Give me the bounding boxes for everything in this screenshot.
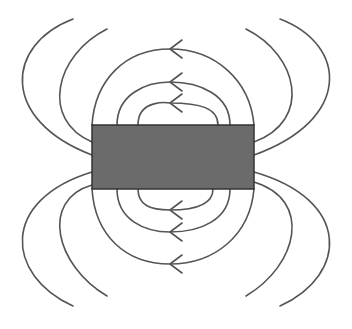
inner-field-loops-bottom [92, 189, 254, 273]
field-loop-top-3 [92, 49, 254, 125]
field-line-outer-left-bottom-2 [60, 185, 107, 296]
field-line-outer-right-bottom-1 [254, 172, 330, 306]
inner-field-loops-top [92, 40, 254, 125]
field-line-outer-left-bottom-1 [22, 172, 92, 306]
magnetic-field-diagram [0, 0, 352, 329]
field-loop-top-1 [138, 103, 218, 125]
field-loop-bottom-3 [92, 189, 254, 264]
field-line-outer-left-top-1 [22, 19, 92, 155]
bar-magnet [92, 125, 254, 189]
